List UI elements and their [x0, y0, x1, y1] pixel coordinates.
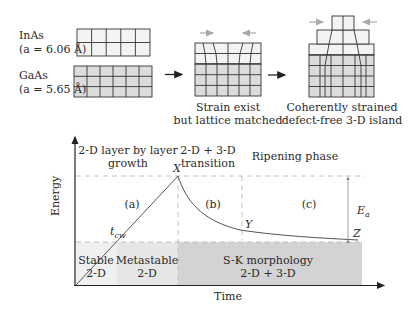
region-b-marker: (b) — [205, 199, 221, 211]
phase-ripening: Ripening phase — [252, 151, 338, 163]
point-x-label: X — [173, 163, 181, 175]
stable-label-line2: 2-D — [86, 268, 106, 280]
sk-label-line2: 2-D + 3-D — [240, 268, 295, 280]
point-y-label: Y — [245, 219, 252, 231]
gaas-label: GaAs — [19, 70, 48, 82]
x-axis-label: Time — [214, 291, 242, 303]
phase-growth-line1: 2-D layer by layer — [78, 145, 177, 157]
metastable-label-line1: Metastable — [116, 255, 178, 267]
region-c-marker: (c) — [302, 199, 317, 211]
ea-symbol: E — [357, 204, 365, 217]
stage1-caption-line2: but lattice matched — [174, 115, 283, 127]
activation-energy-label: Ea — [357, 205, 370, 221]
region-a-marker: (a) — [124, 199, 139, 211]
tcw-label: tcw — [110, 226, 126, 242]
sk-label-line1: S-K morphology — [223, 255, 313, 267]
phase-transition-line1: 2-D + 3-D — [180, 145, 235, 157]
stage2-caption-line2: defect-free 3-D island — [282, 115, 403, 127]
ea-subscript: a — [365, 210, 370, 219]
inas-lattice — [77, 29, 150, 56]
point-z-label: Z — [353, 228, 361, 240]
stage1-caption-line1: Strain exist — [196, 102, 260, 114]
strained-lattice — [195, 33, 261, 96]
gaas-lattice-constant: (a = 5.65 Å) — [19, 84, 86, 96]
inas-lattice-constant: (a = 6.06 Å) — [19, 44, 86, 56]
tcw-subscript: cw — [114, 231, 125, 240]
stage2-caption-line1: Coherently strained — [286, 102, 397, 114]
stable-label-line1: Stable — [78, 255, 114, 267]
inas-label: InAs — [19, 30, 44, 42]
island-lattice — [309, 16, 377, 97]
y-axis-label: Energy — [50, 176, 62, 216]
phase-growth-line2: growth — [108, 158, 148, 170]
metastable-label-line2: 2-D — [137, 268, 157, 280]
phase-transition-line2: transition — [181, 158, 235, 170]
